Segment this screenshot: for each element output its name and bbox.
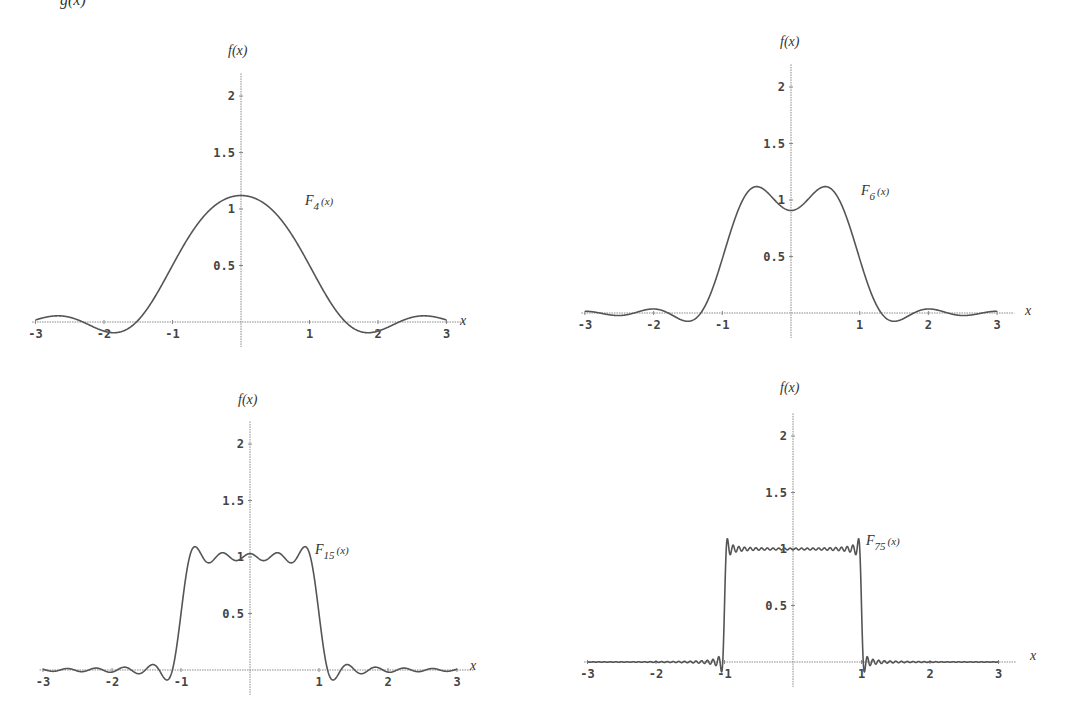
x-tick-label: -2 [649,667,663,681]
curve-label: F75(x) [865,533,900,552]
x-tick-label: 3 [995,667,1002,681]
x-tick-label: 1 [306,327,313,341]
y-tick-label: 0.5 [213,259,235,273]
x-axis-label: x [469,658,477,673]
curve-label: F15(x) [314,542,349,561]
plot-15: -3-2-11230.511.52f(x)xF15(x) [36,392,477,695]
x-tick-label: 1 [315,675,322,689]
y-tick-label: 2 [778,80,785,94]
x-tick-label: 3 [453,675,460,689]
x-tick-label: -1 [715,318,729,332]
x-axis-label: x [1024,303,1032,318]
y-axis-label: f(x) [238,392,258,408]
curve-f-6-x- [585,187,997,322]
y-tick-label: 1.5 [222,494,244,508]
x-tick-label: -1 [174,675,188,689]
y-tick-label: 1.5 [213,146,235,160]
x-tick-label: 2 [925,318,932,332]
x-tick-label: -2 [646,318,660,332]
y-tick-label: 1 [228,202,235,216]
x-tick-label: 1 [856,318,863,332]
plot-75: -3-2-11230.511.52f(x)xF75(x) [580,380,1037,687]
x-tick-label: -3 [28,327,42,341]
plot-6: -3-2-11230.511.52f(x)xF6(x) [578,34,1032,338]
y-tick-label: 2 [228,89,235,103]
y-axis-label: f(x) [780,34,800,50]
x-tick-label: 2 [926,667,933,681]
x-axis-label: x [459,313,467,328]
y-tick-label: 0.5 [763,250,785,264]
y-axis-label: f(x) [228,43,248,59]
x-tick-label: -1 [717,667,731,681]
y-axis-label: f(x) [780,380,800,396]
y-tick-label: 1.5 [765,486,787,500]
curve-label: F6(x) [860,183,890,202]
x-tick-label: 3 [993,318,1000,332]
x-tick-label: -1 [165,327,179,341]
y-tick-label: 1.5 [763,137,785,151]
y-tick-label: 2 [780,429,787,443]
x-tick-label: 3 [443,327,450,341]
x-tick-label: -3 [36,675,50,689]
x-tick-label: 2 [374,327,381,341]
curve-label: F4(x) [304,193,334,212]
x-tick-label: -3 [580,667,594,681]
figure: g(x) -3-2-11230.511.52f(x)xF4(x)-3-2-112… [0,0,1069,717]
y-tick-label: 0.5 [222,607,244,621]
x-tick-label: -2 [105,675,119,689]
plot-4: -3-2-11230.511.52f(x)xF4(x) [28,43,467,347]
y-tick-label: 0.5 [765,599,787,613]
x-tick-label: 2 [384,675,391,689]
y-tick-label: 2 [237,437,244,451]
x-axis-label: x [1029,648,1037,663]
cropped-top-text: g(x) [60,0,86,9]
x-tick-label: -3 [578,318,592,332]
